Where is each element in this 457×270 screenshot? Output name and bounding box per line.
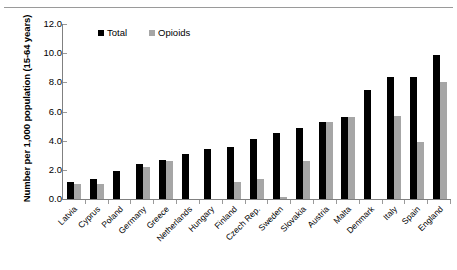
bar-group xyxy=(428,24,451,199)
x-axis-label-cell: Italy xyxy=(383,204,406,266)
x-axis-label-cell: Hungary xyxy=(200,204,223,266)
x-axis-label-cell: Malta xyxy=(337,204,360,266)
bar-group xyxy=(63,24,86,199)
x-axis-label-cell: Latvia xyxy=(63,204,86,266)
y-axis-tick-labels: 12.010.08.06.04.02.00.0 xyxy=(26,24,62,200)
bar-group xyxy=(86,24,109,199)
bar-group xyxy=(291,24,314,199)
bar-group xyxy=(177,24,200,199)
chart-figure: Number per 1,000 population (15-64 years… xyxy=(0,0,457,270)
bar-group xyxy=(109,24,132,199)
bar-group xyxy=(223,24,246,199)
bar-opioids xyxy=(303,161,310,199)
bar-group xyxy=(383,24,406,199)
x-axis-label-cell: Spain xyxy=(405,204,428,266)
bar-total xyxy=(364,90,371,199)
bar-group xyxy=(154,24,177,199)
y-axis-tick-label: 2.0 xyxy=(32,164,62,175)
bar-total xyxy=(410,77,417,200)
x-axis-label-cell: Germany xyxy=(131,204,154,266)
x-axis-tick-labels: LatviaCyprusPolandGermanyGreeceNetherlan… xyxy=(63,204,451,266)
bar-group xyxy=(405,24,428,199)
bar-opioids xyxy=(348,117,355,199)
y-axis-tick-label: 0.0 xyxy=(32,193,62,204)
y-axis-tick-label: 4.0 xyxy=(32,135,62,146)
bar-group xyxy=(337,24,360,199)
y-axis-tick-label: 10.0 xyxy=(32,47,62,58)
bar-total xyxy=(67,182,74,199)
x-axis-tick-label-text: Italy xyxy=(381,204,399,222)
chart-plot-bars xyxy=(63,24,451,199)
x-axis-label-cell: Sweden xyxy=(268,204,291,266)
x-axis-label-cell: Netherlands xyxy=(177,204,200,266)
bar-total xyxy=(433,55,440,199)
x-axis-label-cell: Cyprus xyxy=(86,204,109,266)
bar-group xyxy=(360,24,383,199)
bar-group xyxy=(131,24,154,199)
x-axis-label-cell: Poland xyxy=(109,204,132,266)
y-axis-tick-label: 12.0 xyxy=(32,18,62,29)
x-axis-label-cell: England xyxy=(428,204,451,266)
bar-group xyxy=(268,24,291,199)
bar-group xyxy=(314,24,337,199)
x-axis-label-cell: Slovakia xyxy=(291,204,314,266)
bar-opioids xyxy=(440,82,447,199)
x-axis-label-cell: Austria xyxy=(314,204,337,266)
y-axis-tick-label: 8.0 xyxy=(32,76,62,87)
bar-group xyxy=(246,24,269,199)
x-axis-label-cell: Czech Rep. xyxy=(246,204,269,266)
x-axis-label-cell: Denmark xyxy=(360,204,383,266)
figure-top-rule xyxy=(4,7,453,8)
bar-opioids xyxy=(417,142,424,199)
y-axis-tick-label: 6.0 xyxy=(32,106,62,117)
